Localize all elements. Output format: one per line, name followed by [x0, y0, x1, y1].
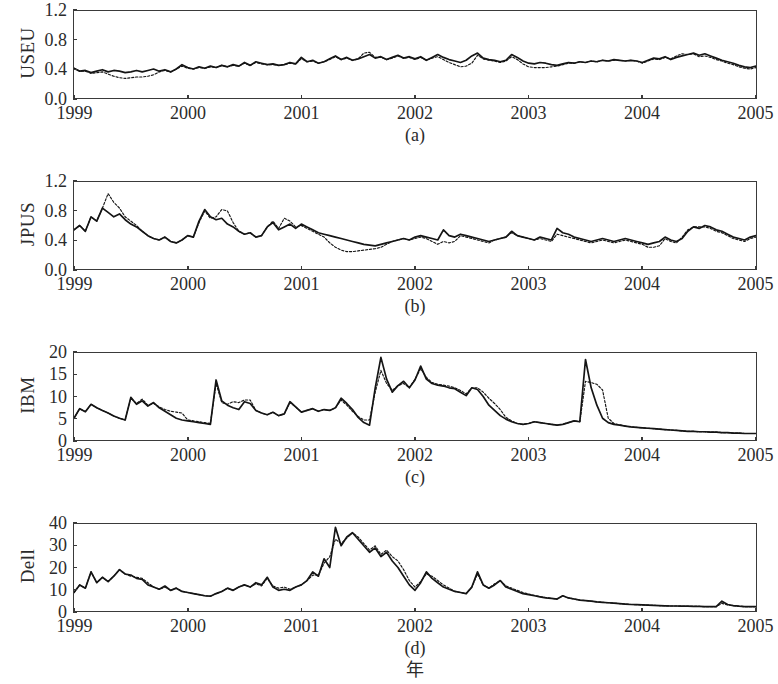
panel-caption: (d): [385, 639, 445, 657]
panel-caption: (c): [385, 468, 445, 486]
y-tick-mark: [73, 210, 77, 211]
series-dotted: [74, 533, 756, 607]
y-tick-label: 0.4: [45, 60, 68, 78]
y-axis-label: USEU: [17, 25, 39, 81]
x-tick-mark: [187, 608, 188, 612]
x-tick-mark: [74, 437, 75, 441]
x-tick-label: 2000: [158, 617, 218, 635]
x-tick-label: 2003: [499, 275, 559, 293]
y-tick-mark: [73, 9, 77, 10]
x-tick-label: 2002: [385, 617, 445, 635]
x-tick-label: 1999: [45, 446, 105, 464]
x-tick-mark: [755, 608, 756, 612]
y-tick-label: 40: [49, 514, 67, 532]
series-solid: [74, 208, 756, 246]
x-tick-label: 2005: [726, 446, 778, 464]
y-tick-mark: [73, 589, 77, 590]
y-tick-mark: [73, 240, 77, 241]
x-tick-label: 2000: [158, 275, 218, 293]
y-tick-label: 20: [49, 559, 67, 577]
plot-area: [73, 352, 757, 441]
x-tick-mark: [641, 608, 642, 612]
x-tick-label: 2004: [612, 446, 672, 464]
x-tick-mark: [414, 266, 415, 270]
x-tick-label: 2002: [385, 275, 445, 293]
x-tick-mark: [641, 266, 642, 270]
y-tick-label: 0.8: [45, 202, 68, 220]
x-tick-label: 2003: [499, 104, 559, 122]
x-tick-label: 2003: [499, 617, 559, 635]
x-tick-mark: [755, 95, 756, 99]
x-tick-mark: [74, 608, 75, 612]
x-tick-label: 2002: [385, 446, 445, 464]
x-tick-mark: [187, 437, 188, 441]
y-tick-label: 15: [49, 365, 67, 383]
x-tick-mark: [301, 95, 302, 99]
series-dotted: [74, 52, 756, 78]
x-tick-label: 2002: [385, 104, 445, 122]
x-tick-mark: [414, 608, 415, 612]
x-tick-mark: [301, 266, 302, 270]
y-tick-mark: [73, 39, 77, 40]
y-tick-label: 10: [49, 581, 67, 599]
y-tick-label: 0.4: [45, 231, 68, 249]
y-tick-mark: [73, 374, 77, 375]
y-tick-mark: [73, 545, 77, 546]
x-tick-label: 2000: [158, 446, 218, 464]
x-tick-label: 1999: [45, 104, 105, 122]
y-tick-label: 1.2: [45, 172, 68, 190]
y-axis-label: JPUS: [17, 196, 39, 252]
x-tick-label: 2001: [272, 617, 332, 635]
series-solid: [74, 53, 756, 73]
x-tick-mark: [301, 608, 302, 612]
x-tick-mark: [74, 95, 75, 99]
x-tick-mark: [528, 608, 529, 612]
x-tick-mark: [528, 95, 529, 99]
x-tick-label: 2000: [158, 104, 218, 122]
x-axis-label: 年: [385, 661, 445, 679]
x-tick-label: 2003: [499, 446, 559, 464]
y-tick-label: 10: [49, 388, 67, 406]
x-tick-mark: [187, 266, 188, 270]
x-tick-label: 2001: [272, 446, 332, 464]
x-tick-label: 1999: [45, 275, 105, 293]
y-tick-label: 20: [49, 343, 67, 361]
x-tick-mark: [187, 95, 188, 99]
series-solid: [74, 527, 756, 606]
y-tick-mark: [73, 522, 77, 523]
panel-caption: (a): [385, 126, 445, 144]
series-solid: [74, 357, 756, 433]
y-axis-label: Dell: [17, 538, 39, 594]
x-tick-mark: [528, 266, 529, 270]
y-tick-mark: [73, 69, 77, 70]
x-tick-mark: [414, 437, 415, 441]
x-tick-mark: [755, 437, 756, 441]
x-tick-mark: [301, 437, 302, 441]
x-tick-label: 2001: [272, 104, 332, 122]
x-tick-label: 2005: [726, 104, 778, 122]
y-tick-label: 5: [58, 410, 67, 428]
y-tick-mark: [73, 396, 77, 397]
x-tick-mark: [74, 266, 75, 270]
y-tick-label: 0.8: [45, 31, 68, 49]
plot-area: [73, 181, 757, 270]
x-tick-mark: [414, 95, 415, 99]
x-tick-mark: [528, 437, 529, 441]
x-tick-label: 2004: [612, 275, 672, 293]
y-tick-mark: [73, 567, 77, 568]
x-tick-label: 2005: [726, 617, 778, 635]
x-tick-label: 2004: [612, 104, 672, 122]
y-axis-label: IBM: [17, 367, 39, 423]
y-tick-mark: [73, 418, 77, 419]
x-tick-label: 1999: [45, 617, 105, 635]
y-tick-label: 1.2: [45, 1, 68, 19]
x-tick-mark: [641, 95, 642, 99]
y-tick-label: 30: [49, 536, 67, 554]
plot-area: [73, 523, 757, 612]
y-tick-mark: [73, 180, 77, 181]
x-tick-label: 2001: [272, 275, 332, 293]
panel-caption: (b): [385, 297, 445, 315]
x-tick-label: 2004: [612, 617, 672, 635]
y-tick-mark: [73, 351, 77, 352]
